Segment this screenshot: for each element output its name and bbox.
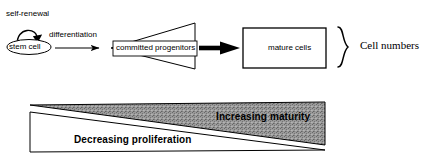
mature-cells-label: mature cells [268,44,311,52]
cell-numbers-brace [338,27,348,67]
stem-cell-hierarchy-figure: self-renewal stem cell differentiation c… [0,0,429,164]
maturation-arrow [199,42,240,55]
decreasing-proliferation-label: Decreasing proliferation [74,135,191,145]
stem-cell-label: stem cell [9,43,41,51]
committed-progenitors-label: committed progenitors [116,44,195,52]
cell-numbers-label: Cell numbers [360,40,419,51]
self-renewal-label: self-renewal [6,10,49,18]
increasing-maturity-label: Increasing maturity [216,112,310,122]
differentiation-label: differentiation [49,31,97,39]
figure-vector-layer [0,0,429,164]
